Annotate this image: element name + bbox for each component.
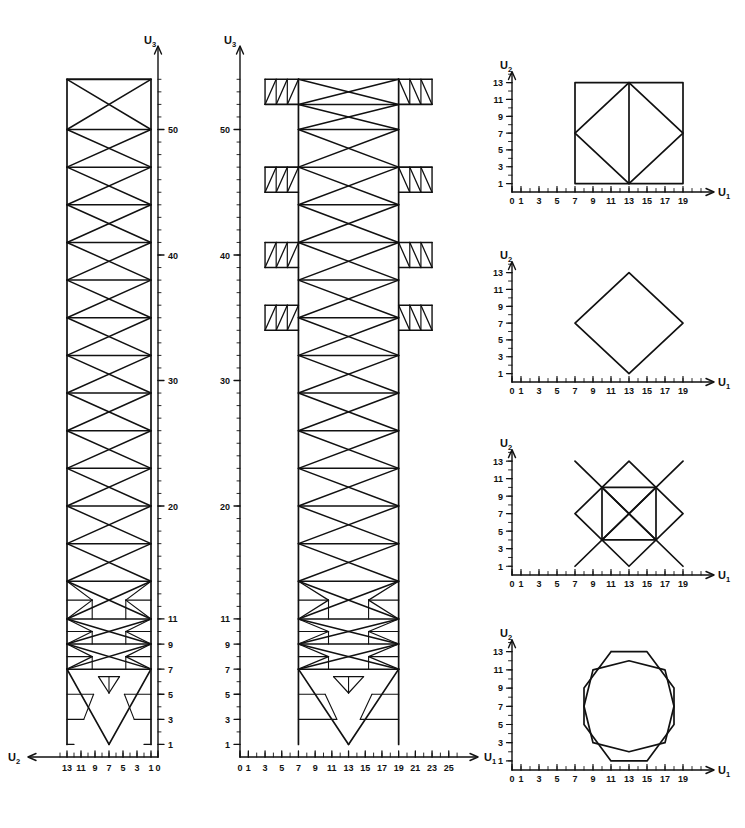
axis-label: U2 bbox=[500, 627, 512, 642]
panel-front-elevation-u1: 1357911203040500135791113151719212325U1U… bbox=[220, 34, 496, 773]
svg-text:11: 11 bbox=[327, 763, 337, 773]
truss-side-elevation bbox=[67, 79, 151, 669]
panel-side-elevation-u2: 1357911203040500135791113U2U3 bbox=[8, 34, 178, 773]
svg-text:50: 50 bbox=[168, 125, 178, 135]
svg-text:13: 13 bbox=[493, 268, 503, 278]
svg-text:20: 20 bbox=[220, 502, 230, 512]
technical-drawing: 1357911203040500135791113U2U313579112030… bbox=[0, 0, 745, 828]
panel-plan-section-c: 0135791113151719135791113U1U2 bbox=[493, 437, 730, 589]
svg-text:19: 19 bbox=[678, 196, 688, 206]
base-legs bbox=[67, 669, 151, 744]
svg-text:1: 1 bbox=[498, 179, 503, 189]
svg-text:11: 11 bbox=[606, 386, 616, 396]
arm-sw bbox=[575, 487, 656, 566]
svg-text:0: 0 bbox=[155, 763, 160, 773]
svg-text:1: 1 bbox=[518, 579, 523, 589]
svg-text:3: 3 bbox=[536, 386, 541, 396]
svg-text:1: 1 bbox=[148, 763, 153, 773]
svg-text:5: 5 bbox=[554, 386, 559, 396]
svg-text:13: 13 bbox=[493, 647, 503, 657]
svg-text:25: 25 bbox=[444, 763, 454, 773]
arm-se bbox=[602, 487, 683, 566]
svg-text:1: 1 bbox=[498, 369, 503, 379]
svg-text:13: 13 bbox=[493, 78, 503, 88]
svg-text:5: 5 bbox=[168, 690, 173, 700]
svg-text:3: 3 bbox=[536, 774, 541, 784]
svg-text:13: 13 bbox=[624, 774, 634, 784]
svg-text:3: 3 bbox=[225, 715, 230, 725]
svg-text:7: 7 bbox=[572, 386, 577, 396]
svg-text:5: 5 bbox=[225, 690, 230, 700]
svg-text:11: 11 bbox=[493, 474, 503, 484]
svg-text:15: 15 bbox=[642, 386, 652, 396]
svg-text:7: 7 bbox=[572, 196, 577, 206]
svg-text:13: 13 bbox=[624, 196, 634, 206]
svg-text:1: 1 bbox=[498, 562, 503, 572]
svg-text:11: 11 bbox=[606, 196, 616, 206]
svg-text:17: 17 bbox=[660, 579, 670, 589]
svg-text:5: 5 bbox=[498, 335, 503, 345]
svg-text:3: 3 bbox=[498, 162, 503, 172]
svg-text:3: 3 bbox=[498, 352, 503, 362]
svg-text:3: 3 bbox=[536, 579, 541, 589]
axis-label: U2 bbox=[8, 751, 20, 766]
svg-text:5: 5 bbox=[554, 774, 559, 784]
svg-text:7: 7 bbox=[498, 509, 503, 519]
section-geometry bbox=[575, 461, 683, 566]
svg-text:3: 3 bbox=[263, 763, 268, 773]
diamond bbox=[575, 273, 683, 374]
figure-root: 1357911203040500135791113U2U313579112030… bbox=[0, 0, 745, 828]
svg-text:5: 5 bbox=[120, 763, 125, 773]
svg-text:1: 1 bbox=[498, 756, 503, 766]
svg-text:5: 5 bbox=[498, 145, 503, 155]
svg-text:20: 20 bbox=[168, 502, 178, 512]
svg-text:17: 17 bbox=[660, 196, 670, 206]
svg-text:9: 9 bbox=[498, 302, 503, 312]
svg-text:7: 7 bbox=[168, 665, 173, 675]
svg-text:5: 5 bbox=[554, 196, 559, 206]
svg-text:9: 9 bbox=[498, 112, 503, 122]
svg-text:0: 0 bbox=[509, 579, 514, 589]
svg-text:15: 15 bbox=[642, 774, 652, 784]
svg-text:1: 1 bbox=[518, 196, 523, 206]
svg-text:1: 1 bbox=[518, 386, 523, 396]
svg-text:13: 13 bbox=[624, 579, 634, 589]
axis-label: U3 bbox=[144, 34, 156, 49]
svg-text:1: 1 bbox=[518, 774, 523, 784]
svg-text:11: 11 bbox=[76, 763, 86, 773]
panel-plan-section-a: 0135791113151719135791113U1U2 bbox=[493, 59, 730, 206]
svg-text:30: 30 bbox=[220, 376, 230, 386]
octagon-primary bbox=[584, 661, 674, 752]
axis-label: U2 bbox=[500, 249, 512, 264]
axis-group: 0135791113151719135791113U1U2 bbox=[493, 249, 730, 396]
svg-text:5: 5 bbox=[498, 720, 503, 730]
svg-text:15: 15 bbox=[642, 579, 652, 589]
section-geometry bbox=[575, 83, 683, 184]
svg-text:11: 11 bbox=[606, 774, 616, 784]
svg-text:19: 19 bbox=[678, 774, 688, 784]
svg-text:11: 11 bbox=[493, 665, 503, 675]
svg-text:1: 1 bbox=[225, 740, 230, 750]
svg-text:3: 3 bbox=[536, 196, 541, 206]
svg-text:19: 19 bbox=[394, 763, 404, 773]
svg-text:40: 40 bbox=[220, 251, 230, 261]
svg-text:9: 9 bbox=[590, 774, 595, 784]
axis-label: U1 bbox=[718, 569, 730, 584]
svg-text:0: 0 bbox=[237, 763, 242, 773]
svg-text:9: 9 bbox=[590, 196, 595, 206]
svg-text:7: 7 bbox=[498, 129, 503, 139]
svg-text:9: 9 bbox=[498, 492, 503, 502]
svg-text:17: 17 bbox=[377, 763, 387, 773]
svg-text:5: 5 bbox=[498, 527, 503, 537]
axis-label: U3 bbox=[224, 34, 236, 49]
svg-text:50: 50 bbox=[220, 125, 230, 135]
svg-text:1: 1 bbox=[246, 763, 251, 773]
svg-text:0: 0 bbox=[509, 196, 514, 206]
svg-text:13: 13 bbox=[493, 457, 503, 467]
svg-text:9: 9 bbox=[590, 386, 595, 396]
axis-group: 0135791113151719135791113U1U2 bbox=[493, 437, 730, 589]
svg-text:11: 11 bbox=[168, 614, 178, 624]
svg-text:13: 13 bbox=[624, 386, 634, 396]
svg-text:1: 1 bbox=[168, 740, 173, 750]
svg-text:7: 7 bbox=[572, 774, 577, 784]
